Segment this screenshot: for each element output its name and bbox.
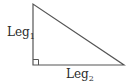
leg1-subscript: 1 [30,32,35,41]
leg2-label: Leg2 [66,68,94,80]
right-angle-marker [33,60,39,66]
triangle-outline [33,4,124,65]
leg1-label-text: Leg [7,25,30,39]
leg2-subscript: 2 [89,74,94,83]
leg2-label-text: Leg [66,67,89,81]
leg1-label: Leg1 [7,26,35,38]
right-triangle-figure [0,0,129,84]
